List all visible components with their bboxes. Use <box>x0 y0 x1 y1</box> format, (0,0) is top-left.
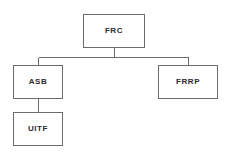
node-uitf-label: UITF <box>28 125 48 133</box>
node-frrp[interactable]: FRRP <box>158 65 218 99</box>
node-asb[interactable]: ASB <box>13 65 63 99</box>
node-uitf[interactable]: UITF <box>13 112 63 146</box>
node-frc[interactable]: FRC <box>83 14 145 48</box>
node-asb-label: ASB <box>29 78 48 86</box>
node-frrp-label: FRRP <box>176 78 200 86</box>
hierarchy-diagram: FRC ASB FRRP UITF <box>0 0 227 158</box>
node-frc-label: FRC <box>105 27 123 35</box>
